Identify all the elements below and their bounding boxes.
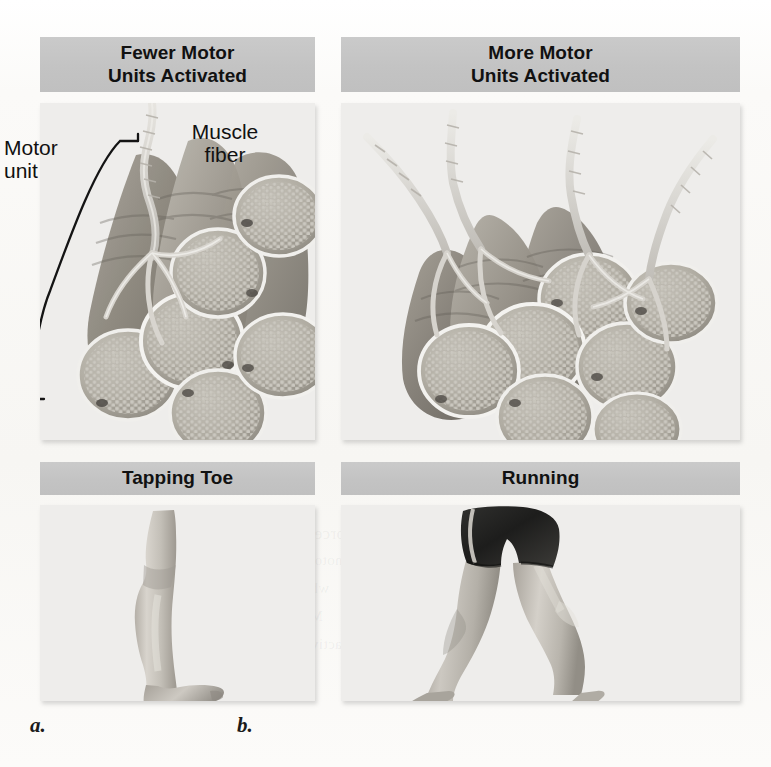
panel-a-photo bbox=[40, 505, 315, 701]
panel-b-header-line2: Units Activated bbox=[471, 65, 610, 87]
motor-unit-many-illustration bbox=[341, 103, 740, 440]
running-legs-photo bbox=[341, 505, 740, 701]
label-motor-unit: Motor unit bbox=[4, 137, 100, 182]
panel-b-sublabel: Running bbox=[502, 467, 580, 489]
label-muscle-fiber: Muscle fiber bbox=[170, 121, 280, 166]
tapping-toe-photo bbox=[40, 505, 315, 701]
panel-b-photo bbox=[341, 505, 740, 701]
panel-a-sublabel: Tapping Toe bbox=[122, 467, 233, 489]
panel-b-illustration bbox=[341, 103, 740, 440]
panel-a-header-line2: Units Activated bbox=[108, 65, 247, 87]
panel-b-header-line1: More Motor bbox=[471, 42, 610, 64]
panel-a-caption: a. bbox=[30, 713, 46, 738]
panel-b-caption: b. bbox=[237, 713, 253, 738]
panel-a-header-bar: Fewer Motor Units Activated bbox=[40, 37, 315, 92]
panel-b-header-bar: More Motor Units Activated bbox=[341, 37, 740, 92]
panel-a-header-line1: Fewer Motor bbox=[108, 42, 247, 64]
panel-b-sublabel-bar: Running bbox=[341, 462, 740, 495]
panel-a-sublabel-bar: Tapping Toe bbox=[40, 462, 315, 495]
panel-a-illustration: Motor unit Muscle fiber bbox=[40, 103, 315, 440]
